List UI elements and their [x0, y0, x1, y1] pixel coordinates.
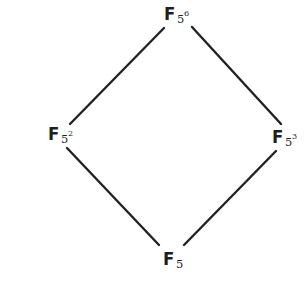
node-subscript: 5 — [176, 259, 183, 271]
node-superscript: 3 — [292, 133, 297, 141]
node-base: F — [164, 5, 175, 23]
node-base: F — [163, 250, 174, 268]
edge-left-to-top — [70, 28, 164, 124]
node-left-F-5-2: F 5 2 — [48, 125, 60, 143]
subfield-lattice-diagram: F 5 6 F 5 2 F 5 3 F 5 — [0, 0, 305, 296]
node-right-F-5-3: F 5 3 — [272, 128, 284, 146]
edges-layer — [0, 0, 305, 296]
node-bottom-F-5: F 5 — [163, 250, 175, 268]
node-base: F — [48, 125, 59, 143]
edge-right-to-top — [192, 27, 281, 124]
node-base: F — [272, 128, 283, 146]
node-top-F-5-6: F 5 6 — [164, 5, 176, 23]
node-superscript: 2 — [68, 130, 73, 138]
node-superscript: 6 — [184, 10, 189, 18]
edge-bottom-to-left — [67, 148, 159, 245]
edge-bottom-to-right — [184, 151, 276, 245]
